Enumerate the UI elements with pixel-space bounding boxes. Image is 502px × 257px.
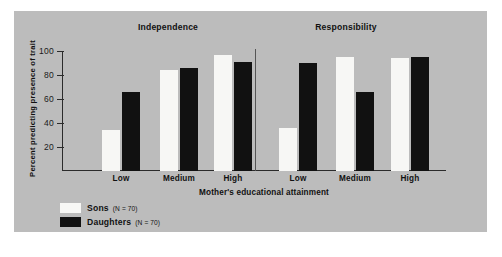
panel-title-responsibility: Responsibility xyxy=(286,22,406,32)
legend-swatch-daughters xyxy=(60,217,81,227)
y-tick-20 xyxy=(57,147,64,148)
y-tick-100 xyxy=(57,51,64,52)
bar-daughters-independence-medium xyxy=(180,68,198,171)
bar-sons-independence-medium xyxy=(160,70,178,171)
bar-sons-independence-high xyxy=(214,55,232,171)
legend-label-daughters: Daughters xyxy=(87,217,131,227)
legend-n-daughters: (N = 70) xyxy=(135,219,160,226)
chart-panel: Percent predicting presence of trait 204… xyxy=(14,11,487,232)
bar-sons-responsibility-low xyxy=(279,128,297,171)
legend-n-sons: (N = 70) xyxy=(113,205,138,212)
bar-daughters-independence-low xyxy=(122,92,140,171)
bar-sons-responsibility-high xyxy=(391,58,409,171)
bar-daughters-responsibility-medium xyxy=(356,92,374,171)
bar-daughters-responsibility-low xyxy=(299,63,317,171)
bar-daughters-independence-high xyxy=(234,62,252,171)
y-tick-label-20: 20 xyxy=(22,142,54,152)
bar-sons-responsibility-medium xyxy=(336,57,354,171)
bar-sons-independence-low xyxy=(102,130,120,171)
legend-label-sons: Sons xyxy=(87,203,109,213)
y-tick-label-80: 80 xyxy=(22,70,54,80)
legend-item-daughters: Daughters(N = 70) xyxy=(60,216,160,228)
panel-title-independence: Independence xyxy=(108,22,228,32)
y-tick-label-60: 60 xyxy=(22,94,54,104)
x-axis-title: Mother's educational attainment xyxy=(164,188,364,197)
x-category-label-independence-medium: Medium xyxy=(148,174,210,183)
x-category-label-independence-low: Low xyxy=(90,174,152,183)
x-category-label-responsibility-low: Low xyxy=(267,174,329,183)
bar-daughters-responsibility-high xyxy=(411,57,429,171)
x-category-label-responsibility-medium: Medium xyxy=(324,174,386,183)
x-category-label-responsibility-high: High xyxy=(379,174,441,183)
legend-swatch-sons xyxy=(60,203,81,213)
y-axis-title: Percent predicting presence of trait xyxy=(28,34,37,184)
y-tick-label-40: 40 xyxy=(22,118,54,128)
legend-item-sons: Sons(N = 70) xyxy=(60,202,160,214)
y-axis-line xyxy=(62,51,63,171)
y-tick-40 xyxy=(57,123,64,124)
panel-divider xyxy=(255,49,256,171)
y-tick-60 xyxy=(57,99,64,100)
plot-area: Percent predicting presence of trait 204… xyxy=(14,11,487,232)
y-tick-label-100: 100 xyxy=(22,46,54,56)
figure-canvas: Percent predicting presence of trait 204… xyxy=(0,0,502,257)
x-category-label-independence-high: High xyxy=(202,174,264,183)
y-tick-80 xyxy=(57,75,64,76)
legend: Sons(N = 70)Daughters(N = 70) xyxy=(60,202,160,230)
